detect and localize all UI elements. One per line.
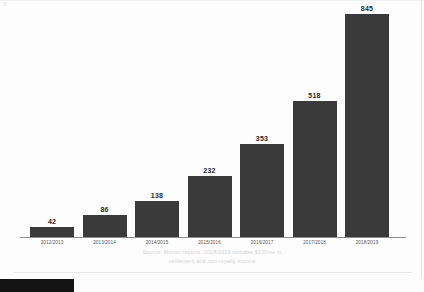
bar-value-label: 86 [83, 206, 127, 213]
x-axis-tick-label: 2012/2013 [22, 240, 82, 245]
slide-page: 4286138232353518845 2012/20132013/201420… [0, 0, 424, 292]
source-note-line-2: settlement and non-royalty income [0, 257, 424, 266]
bar [293, 101, 337, 238]
source-note-line-1: Source: Monoo reports. 2018/2019 include… [0, 248, 424, 257]
bar [345, 14, 389, 238]
plot-area: 4286138232353518845 [22, 14, 404, 238]
x-axis-tick-label: 2015/2016 [180, 240, 240, 245]
bar-value-label: 42 [30, 218, 74, 225]
x-axis-line [20, 237, 406, 238]
bar-value-label: 353 [240, 135, 284, 142]
bar-value-label: 845 [345, 5, 389, 12]
bar-chart: 4286138232353518845 2012/20132013/201420… [0, 0, 424, 292]
bar [83, 215, 127, 238]
x-axis-tick-label: 2018/2019 [337, 240, 397, 245]
bar [240, 144, 284, 238]
x-axis-tick-label: 2013/2014 [75, 240, 135, 245]
x-axis-tick-label: 2016/2017 [232, 240, 292, 245]
bar [135, 201, 179, 238]
bar-value-label: 138 [135, 192, 179, 199]
footer-brand-swatch [0, 279, 74, 292]
bar-value-label: 518 [293, 92, 337, 99]
x-axis-tick-label: 2017/2018 [285, 240, 345, 245]
bar [188, 176, 232, 238]
x-axis-tick-label: 2014/2015 [127, 240, 187, 245]
source-note: Source: Monoo reports. 2018/2019 include… [0, 248, 424, 265]
bar-value-label: 232 [188, 167, 232, 174]
